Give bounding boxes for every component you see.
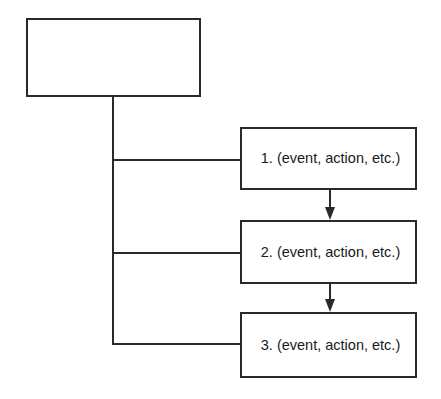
arrow-down-icon xyxy=(323,283,337,313)
trunk-line xyxy=(112,96,114,345)
branch-line-3 xyxy=(112,343,241,345)
step-label-2: 2. (event, action, etc.) xyxy=(252,243,406,262)
step-box-1: 1. (event, action, etc.) xyxy=(240,127,417,190)
step-label-3: 3. (event, action, etc.) xyxy=(252,336,406,355)
root-box xyxy=(26,18,201,97)
arrow-down-icon xyxy=(323,189,337,221)
step-box-3: 3. (event, action, etc.) xyxy=(240,312,417,378)
step-box-2: 2. (event, action, etc.) xyxy=(240,220,417,284)
step-label-1: 1. (event, action, etc.) xyxy=(252,149,406,168)
branch-line-2 xyxy=(112,252,241,254)
branch-line-1 xyxy=(112,159,241,161)
